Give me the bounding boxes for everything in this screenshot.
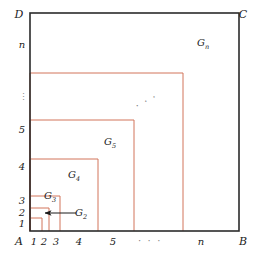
y-tick-1: 1 xyxy=(19,218,25,229)
x-tick-3: 3 xyxy=(53,236,59,247)
corner-label-c: C xyxy=(239,8,248,21)
corner-label-d: D xyxy=(14,8,24,21)
y-tick-5: 5 xyxy=(19,124,25,135)
x-axis-ellipsis: · · · xyxy=(138,235,162,246)
corner-label-a: A xyxy=(14,235,23,248)
y-axis-ellipsis: ⋮ xyxy=(19,92,28,102)
x-tick-4: 4 xyxy=(75,236,82,247)
x-tick-1: 1 xyxy=(31,236,37,247)
figure-container: D C A B 12345n ⋮ 12345n · · · · · · G2G3… xyxy=(0,0,261,256)
x-tick-n: n xyxy=(198,236,204,247)
y-tick-4: 4 xyxy=(18,161,25,172)
y-tick-3: 3 xyxy=(19,195,25,206)
y-tick-2: 2 xyxy=(18,207,25,218)
x-tick-5: 5 xyxy=(110,236,116,247)
y-tick-n: n xyxy=(19,39,25,50)
corner-label-b: B xyxy=(238,235,247,248)
nested-regions-diagram: D C A B 12345n ⋮ 12345n · · · · · · G2G3… xyxy=(0,0,261,256)
x-tick-2: 2 xyxy=(40,236,47,247)
